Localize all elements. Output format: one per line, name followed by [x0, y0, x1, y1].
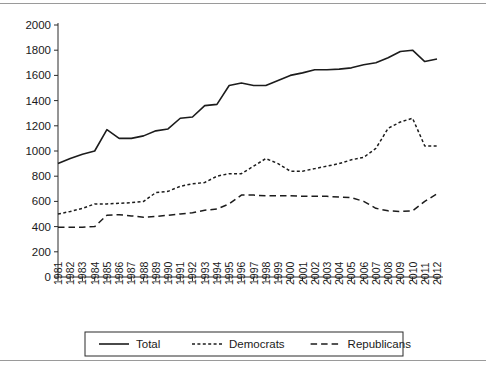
- x-tick-label: 1985: [101, 261, 113, 285]
- y-tick-label: 200: [32, 246, 51, 258]
- x-tick-label: 2004: [333, 261, 345, 285]
- x-tick-label: 1982: [64, 261, 76, 285]
- x-tick-label: 2002: [309, 261, 321, 285]
- legend-label-democrats: Democrats: [229, 338, 285, 350]
- x-tick-label: 1993: [199, 261, 211, 285]
- y-tick-label: 1600: [25, 69, 51, 81]
- y-axis: 0200400600800100012001400160018002000: [25, 19, 58, 283]
- y-tick-label: 800: [32, 170, 51, 182]
- x-tick-label: 2009: [394, 261, 406, 285]
- y-tick-label: 2000: [25, 19, 51, 31]
- x-tick-label: 2011: [419, 262, 431, 285]
- x-tick-label: 2003: [321, 261, 333, 285]
- series-line-republicans: [58, 194, 437, 227]
- x-tick-label: 1987: [125, 261, 137, 285]
- x-tick-label: 1995: [223, 261, 235, 285]
- legend-label-total: Total: [136, 338, 160, 350]
- series-line-democrats: [58, 118, 437, 214]
- y-tick-label: 1800: [25, 44, 51, 56]
- chart-legend: TotalDemocratsRepublicans: [85, 332, 411, 356]
- x-tick-label: 1986: [113, 261, 125, 285]
- y-tick-label: 1400: [25, 95, 51, 107]
- y-tick-label: 1000: [25, 145, 51, 157]
- y-tick-label: 600: [32, 195, 51, 207]
- series-line-total: [58, 50, 437, 163]
- x-tick-label: 1984: [89, 261, 101, 285]
- x-tick-label: 2001: [297, 261, 309, 285]
- legend-label-republicans: Republicans: [348, 338, 412, 350]
- x-tick-label: 1998: [260, 261, 272, 285]
- series-lines: [58, 50, 437, 227]
- x-tick-label: 1983: [76, 261, 88, 285]
- x-tick-label: 1996: [235, 261, 247, 285]
- x-tick-label: 2007: [370, 261, 382, 285]
- line-chart-plot: 0200400600800100012001400160018002000 19…: [0, 0, 486, 377]
- y-tick-label: 400: [32, 221, 51, 233]
- x-tick-label: 1992: [186, 261, 198, 285]
- x-tick-label: 1997: [248, 261, 260, 285]
- x-tick-label: 1991: [174, 261, 186, 285]
- x-tick-label: 1994: [211, 261, 223, 285]
- x-tick-label: 2010: [407, 261, 419, 285]
- chart-figure: 0200400600800100012001400160018002000 19…: [0, 0, 486, 377]
- x-tick-label: 1989: [150, 261, 162, 285]
- x-tick-label: 1999: [272, 261, 284, 285]
- x-tick-label: 2008: [382, 261, 394, 285]
- x-tick-label: 2006: [358, 261, 370, 285]
- x-tick-label: 1981: [52, 261, 64, 285]
- x-tick-label: 1988: [138, 261, 150, 285]
- x-tick-label: 2005: [345, 261, 357, 285]
- x-axis: 1981198219831984198519861987198819891990…: [52, 261, 443, 285]
- x-tick-label: 2012: [431, 261, 443, 285]
- y-tick-label: 1200: [25, 120, 51, 132]
- x-tick-label: 1990: [162, 261, 174, 285]
- y-tick-label: 0: [45, 271, 51, 283]
- x-tick-label: 2000: [284, 261, 296, 285]
